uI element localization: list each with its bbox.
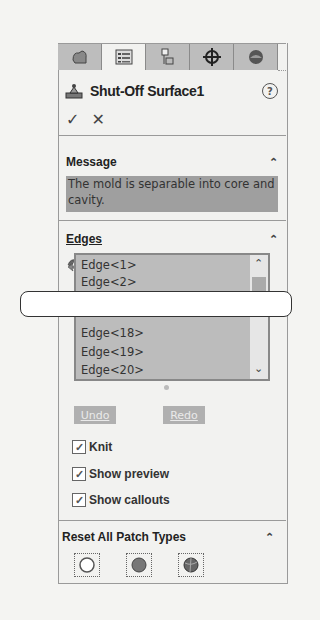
list-item[interactable]: Edge<20> <box>81 363 144 377</box>
scroll-up-icon[interactable]: ⌃ <box>254 257 263 270</box>
ok-button[interactable]: ✓ <box>66 110 79 129</box>
tab-configuration-manager[interactable] <box>146 44 190 70</box>
manager-tabs <box>58 43 286 71</box>
list-item[interactable]: Edge<2> <box>81 275 137 289</box>
configuration-manager-icon <box>160 48 176 66</box>
tab-display-manager[interactable] <box>234 44 278 70</box>
show-preview-option[interactable]: ✓ Show preview <box>72 467 169 481</box>
tangent-patch-button[interactable] <box>178 553 204 577</box>
divider <box>58 220 286 221</box>
knit-option[interactable]: ✓ Knit <box>72 440 112 454</box>
list-scrollbar[interactable]: ⌃ ⌄ <box>250 255 268 379</box>
property-header: Shut-Off Surface1 ? <box>64 80 278 102</box>
list-item[interactable]: Edge<1> <box>81 258 137 272</box>
cancel-button[interactable]: ✕ <box>91 110 104 129</box>
knit-checkbox[interactable]: ✓ <box>72 440 86 454</box>
edges-heading: Edges <box>66 232 102 246</box>
dimxpert-icon <box>203 48 221 66</box>
undo-button[interactable]: Undo <box>74 406 116 424</box>
tab-spacer <box>278 44 286 71</box>
feature-title: Shut-Off Surface1 <box>90 83 204 99</box>
show-preview-checkbox[interactable]: ✓ <box>72 467 86 481</box>
contact-patch-button[interactable] <box>126 553 152 577</box>
reset-section-header[interactable]: Reset All Patch Types ⌃ <box>62 530 274 544</box>
feature-manager-icon <box>70 48 90 66</box>
tangent-patch-icon <box>182 556 200 574</box>
tab-feature-manager[interactable] <box>58 44 102 70</box>
display-manager-icon <box>247 48 265 66</box>
contact-patch-icon <box>130 556 148 574</box>
no-fill-patch-icon <box>78 556 96 574</box>
scroll-down-icon[interactable]: ⌄ <box>254 362 263 375</box>
reset-heading[interactable]: Reset All Patch Types <box>62 530 186 544</box>
divider <box>58 135 286 136</box>
break-indicator <box>20 291 292 317</box>
show-callouts-label: Show callouts <box>89 493 170 507</box>
no-fill-patch-button[interactable] <box>74 553 100 577</box>
list-item[interactable]: Edge<19> <box>81 345 144 359</box>
list-item[interactable]: Edge<18> <box>81 326 144 340</box>
property-manager-icon <box>115 49 133 65</box>
message-section-header[interactable]: Message ⌃ <box>66 155 278 169</box>
message-box: The mold is separable into core and cavi… <box>66 176 278 212</box>
show-callouts-checkbox[interactable]: ✓ <box>72 493 86 507</box>
divider <box>58 520 286 521</box>
scroll-thumb[interactable] <box>252 277 266 291</box>
collapse-caret-icon[interactable]: ⌃ <box>265 531 274 544</box>
edges-listbox[interactable]: Edge<1> Edge<2> Edge<18> Edge<19> Edge<2… <box>74 253 270 381</box>
show-preview-label: Show preview <box>89 467 169 481</box>
resize-handle[interactable] <box>164 385 169 390</box>
tab-dimxpert-manager[interactable] <box>190 44 234 70</box>
collapse-caret-icon[interactable]: ⌃ <box>269 233 278 246</box>
show-callouts-option[interactable]: ✓ Show callouts <box>72 493 170 507</box>
collapse-caret-icon[interactable]: ⌃ <box>269 156 278 169</box>
shut-off-surface-icon <box>64 82 84 100</box>
knit-label: Knit <box>89 440 112 454</box>
help-icon[interactable]: ? <box>262 83 278 99</box>
edges-section-header[interactable]: Edges ⌃ <box>66 232 278 246</box>
message-heading: Message <box>66 155 117 169</box>
tab-property-manager[interactable] <box>102 44 146 70</box>
redo-button[interactable]: Redo <box>163 406 205 424</box>
confirm-row: ✓ ✕ <box>66 110 105 129</box>
